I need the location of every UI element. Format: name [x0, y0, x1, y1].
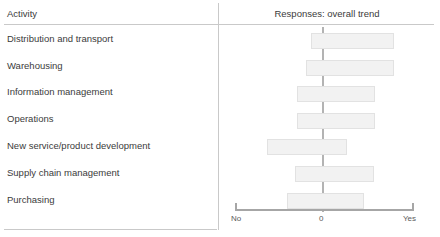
bar-range	[287, 193, 364, 209]
bar-range	[306, 60, 395, 76]
row-label: Operations	[7, 113, 53, 125]
chart-figure: Activity Responses: overall trend Distri…	[0, 0, 440, 237]
row-label: Information management	[7, 86, 113, 98]
x-axis-tick-min	[235, 203, 237, 211]
bar-range	[297, 113, 375, 129]
bar-range	[295, 166, 374, 182]
column-header-activity: Activity	[7, 8, 37, 20]
row-label: Distribution and transport	[7, 33, 113, 45]
row-label: New service/product development	[7, 140, 150, 152]
plot-area: No 0 Yes	[218, 24, 440, 237]
row-label: Supply chain management	[7, 167, 120, 179]
row-label: Purchasing	[7, 194, 55, 206]
x-axis-label-yes: Yes	[403, 214, 416, 224]
x-axis-tick-max	[412, 203, 414, 211]
x-axis-label-no: No	[231, 214, 241, 224]
bottom-divider	[4, 229, 217, 230]
x-axis-line	[235, 209, 414, 211]
bar-range	[297, 86, 375, 102]
row-label: Warehousing	[7, 60, 63, 72]
bar-range	[267, 139, 347, 155]
bar-range	[311, 33, 394, 49]
x-axis-label-zero: 0	[319, 214, 323, 224]
column-header-responses: Responses: overall trend	[218, 8, 436, 20]
